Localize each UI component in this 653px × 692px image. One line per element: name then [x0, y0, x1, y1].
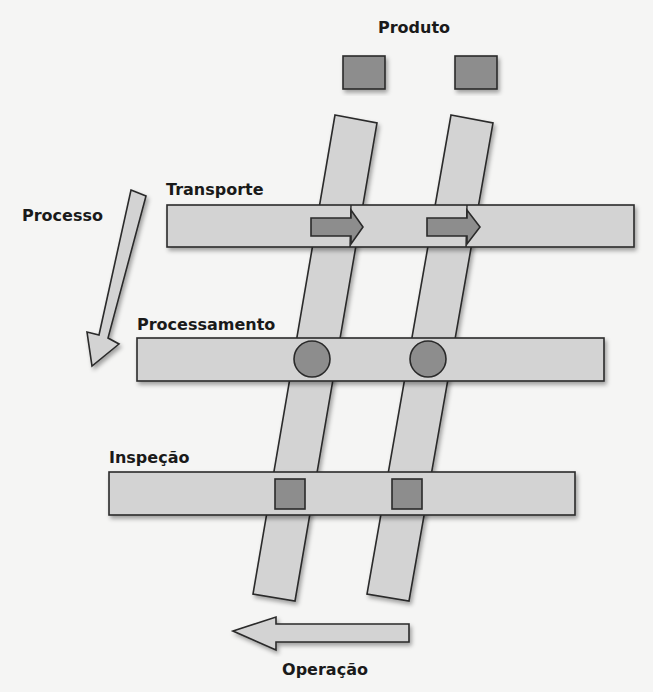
- production-diagram: Produto Processo Transporte Processament…: [0, 0, 653, 692]
- row-label-inspecao: Inspeção: [109, 448, 189, 467]
- row-label-transporte: Transporte: [166, 180, 264, 199]
- operation-bar-inspecao: [109, 472, 575, 515]
- process-label: Processo: [22, 206, 103, 225]
- inspection-square-2: [392, 479, 422, 509]
- processing-circle-2: [410, 341, 446, 377]
- operation-label: Operação: [282, 660, 368, 679]
- inspection-square-1: [275, 479, 305, 509]
- product-label: Produto: [378, 18, 450, 37]
- operation-bar-transporte: [167, 205, 634, 247]
- operation-bar-processamento: [137, 338, 604, 381]
- product-square-2: [455, 56, 497, 89]
- row-label-processamento: Processamento: [137, 315, 275, 334]
- processing-circle-1: [294, 341, 330, 377]
- product-square-1: [343, 56, 385, 89]
- diagram-canvas: Produto Processo Transporte Processament…: [0, 0, 653, 692]
- operation-direction-arrow: [233, 617, 409, 650]
